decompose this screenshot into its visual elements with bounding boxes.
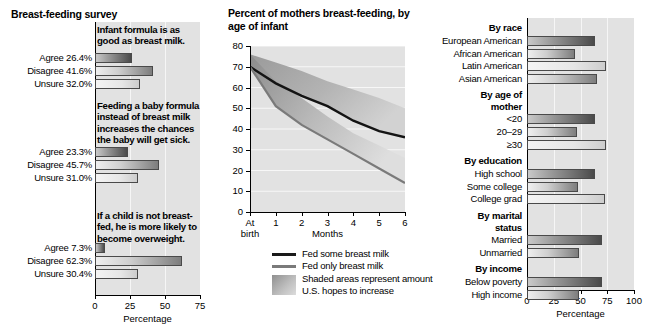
demographics-row-label: <20 [422, 113, 522, 124]
legend-label: U.S. hopes to increase [302, 285, 394, 296]
survey-response-label: Agree 26.4% [0, 52, 92, 63]
survey-response-label: Disagree 41.6% [0, 65, 92, 76]
survey-bar [95, 173, 138, 183]
axis-tick [130, 295, 131, 299]
demographics-row-label: 20–29 [422, 126, 522, 137]
gridline [607, 18, 608, 290]
survey-question: Feeding a baby formula instead of breast… [97, 100, 201, 146]
demographics-group-heading: By income [422, 263, 522, 275]
trend-panel: Percent of mothers breast-feeding, by ag… [215, 0, 420, 327]
axis-tick-label: 20 [219, 165, 243, 176]
legend-line-icon [272, 265, 296, 268]
axis-tick [353, 212, 354, 216]
demographics-bar [527, 127, 577, 137]
demographics-bar [527, 114, 595, 124]
legend-item: Fed only breast milk [272, 260, 432, 272]
survey-question: Infant formula is as good as breast milk… [97, 24, 201, 47]
survey-question: If a child is not breast-fed, he is more… [97, 210, 201, 244]
demographics-row-label: Latin American [422, 60, 522, 71]
legend-label: Shaded areas represent amount [302, 273, 432, 284]
axis-tick-label: 60 [219, 82, 243, 93]
axis-tick [95, 295, 96, 299]
survey-panel: Breast-feeding survey 0255075Infant form… [0, 0, 215, 327]
demographics-bar [527, 248, 579, 258]
demographics-group-heading: By race [422, 22, 522, 34]
demographics-bar [527, 182, 578, 192]
survey-response-label: Agree 23.3% [0, 146, 92, 157]
axis-tick-label: 1 [263, 217, 289, 228]
axis-tick [246, 67, 250, 68]
survey-response-label: Unsure 32.0% [0, 78, 92, 89]
survey-response-label: Disagree 62.3% [0, 255, 92, 266]
trend-chart-svg [250, 46, 405, 212]
axis-tick [634, 290, 635, 294]
axis-tick-label: 100 [621, 295, 647, 306]
axis-tick [379, 212, 380, 216]
axis-tick [246, 150, 250, 151]
demographics-bar [527, 74, 597, 84]
axis-tick [246, 88, 250, 89]
axis-tick [276, 212, 277, 216]
trend-x-title: Months [250, 228, 405, 239]
axis-tick [246, 171, 250, 172]
survey-x-axis [95, 295, 200, 296]
survey-response-label: Disagree 45.7% [0, 159, 92, 170]
axis-tick-label: 0 [83, 300, 107, 311]
survey-bar [95, 269, 138, 279]
survey-bar [95, 53, 132, 63]
demographics-row-label: College grad [422, 193, 522, 204]
demographics-bar [527, 36, 595, 46]
demographics-bar [527, 194, 605, 204]
axis-tick [165, 295, 166, 299]
trend-plot-area [250, 46, 405, 212]
demographics-row-label: High income [422, 289, 522, 300]
demographics-row-label: Below poverty [422, 276, 522, 287]
demographics-bar [527, 61, 606, 71]
axis-tick-label: 6 [392, 217, 418, 228]
axis-tick-label: 50 [219, 102, 243, 113]
demographics-group-heading: By age of mother [422, 89, 522, 112]
demographics-panel: 0255075100By raceEuropean AmericanAfrica… [420, 0, 651, 327]
survey-response-label: Unsure 31.0% [0, 172, 92, 183]
axis-tick [405, 212, 406, 216]
demographics-group-heading: By education [422, 155, 522, 167]
trend-y-axis [250, 46, 251, 212]
axis-tick-label: 2 [289, 217, 315, 228]
legend-line-icon [272, 253, 296, 256]
demographics-row-label: ≥30 [422, 139, 522, 150]
demographics-row-label: High school [422, 168, 522, 179]
axis-tick-label: 4 [340, 217, 366, 228]
axis-tick-label: 70 [219, 61, 243, 72]
demographics-axis-title: Percentage [527, 308, 634, 319]
axis-tick-label: 3 [315, 217, 341, 228]
axis-tick-label: 50 [153, 300, 177, 311]
axis-tick-label: At [237, 217, 263, 228]
demographics-row-label: European American [422, 35, 522, 46]
demographics-bar [527, 235, 602, 245]
axis-tick [200, 295, 201, 299]
survey-bar [95, 79, 140, 89]
demographics-row-label: Married [422, 234, 522, 245]
axis-tick-label: 75 [594, 295, 620, 306]
axis-tick [607, 290, 608, 294]
axis-tick [328, 212, 329, 216]
demographics-bar [527, 49, 575, 59]
axis-tick [581, 290, 582, 294]
legend-item: U.S. hopes to increase [272, 285, 432, 297]
demographics-row-label: Unmarried [422, 247, 522, 258]
demographics-row-label: Some college [422, 181, 522, 192]
legend-label: Fed only breast milk [302, 260, 383, 271]
survey-bar [95, 66, 153, 76]
axis-tick-label: 40 [219, 123, 243, 134]
axis-tick-label: 10 [219, 185, 243, 196]
axis-tick-label: 0 [219, 206, 243, 217]
survey-response-label: Unsure 30.4% [0, 268, 92, 279]
axis-tick-label: 75 [188, 300, 212, 311]
axis-tick-label: 80 [219, 40, 243, 51]
demographics-group-heading: By marital status [422, 210, 522, 233]
axis-tick-label: 5 [366, 217, 392, 228]
axis-tick [246, 191, 250, 192]
survey-response-label: Agree 7.3% [0, 242, 92, 253]
legend-label: Fed some breast milk [302, 248, 389, 259]
axis-tick [250, 212, 251, 216]
